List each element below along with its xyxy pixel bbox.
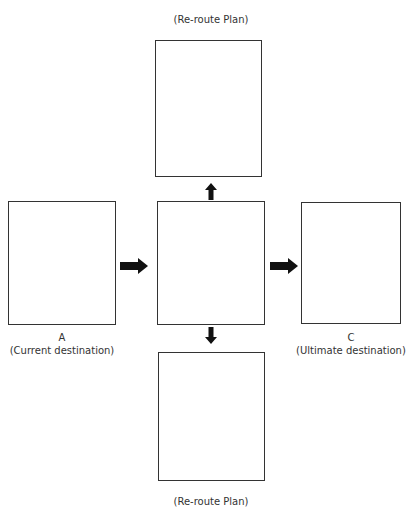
bottom-box bbox=[158, 352, 265, 481]
left-box-label: A (Current destination) bbox=[0, 331, 124, 357]
left-box bbox=[8, 201, 116, 325]
right-box bbox=[301, 202, 401, 324]
top-reroute-label: (Re-route Plan) bbox=[158, 13, 264, 26]
right-arrow-icon bbox=[270, 258, 298, 274]
top-box bbox=[155, 40, 262, 177]
left-caption: (Current destination) bbox=[0, 344, 124, 357]
right-caption: (Ultimate destination) bbox=[292, 344, 409, 357]
bottom-reroute-label: (Re-route Plan) bbox=[158, 495, 264, 508]
up-arrow-icon bbox=[205, 183, 217, 200]
right-box-label: C (Ultimate destination) bbox=[292, 331, 409, 357]
left-letter: A bbox=[0, 331, 124, 344]
right-arrow-icon bbox=[120, 258, 148, 274]
center-box bbox=[157, 201, 265, 325]
right-letter: C bbox=[292, 331, 409, 344]
down-arrow-icon bbox=[205, 327, 217, 344]
